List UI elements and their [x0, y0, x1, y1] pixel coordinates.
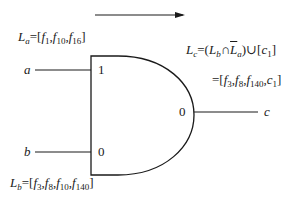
output-value-c: 0 [179, 105, 186, 118]
right-arrow-icon [95, 12, 185, 18]
fault-list-b: Lb=[f3,f8,f10,f140] [10, 176, 94, 189]
input-label-a: a [24, 63, 31, 76]
input-label-b: b [24, 145, 31, 158]
fault-list-c-formula: Lc=(Lb∩La)∪[c1] [186, 43, 276, 56]
fault-list-c-result: =[f3,f8,f140,c1] [212, 73, 281, 86]
output-label-c: c [264, 105, 270, 118]
input-value-a: 1 [98, 63, 105, 76]
input-value-b: 0 [98, 145, 105, 158]
fault-list-a: La=[f1,f10,f16] [18, 30, 86, 43]
